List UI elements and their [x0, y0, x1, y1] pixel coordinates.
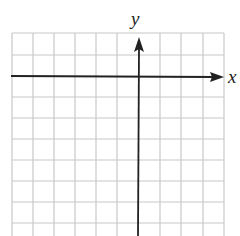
- grid-lines: [12, 33, 224, 236]
- x-axis-label: x: [228, 67, 236, 86]
- coordinate-grid: [0, 0, 240, 236]
- y-axis: [134, 37, 144, 236]
- y-axis-label: y: [131, 9, 139, 28]
- x-axis-arrow-icon: [210, 72, 224, 82]
